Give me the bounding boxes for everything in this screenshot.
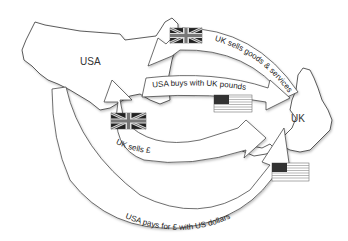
currency-flow-diagram: USA UK UK sells goods & services USA buy… xyxy=(0,0,348,241)
union-jack-flag-icon xyxy=(111,113,146,129)
union-jack-flag-icon xyxy=(170,28,202,43)
usa-label: USA xyxy=(80,56,101,67)
us-flag-icon xyxy=(272,163,309,181)
uk-label: UK xyxy=(291,113,305,124)
us-flag-icon xyxy=(214,95,252,112)
